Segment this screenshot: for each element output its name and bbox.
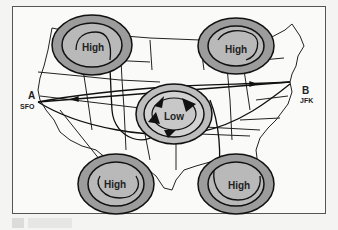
point-a-code: SFO bbox=[20, 103, 35, 110]
weather-route-diagram: High High Low High High A SFO B JFK bbox=[0, 0, 338, 230]
point-b-label: B bbox=[302, 85, 309, 96]
high-label-se: High bbox=[228, 180, 250, 191]
high-pressure-southeast: High bbox=[198, 154, 274, 214]
point-a-label: A bbox=[28, 90, 35, 101]
high-pressure-northeast: High bbox=[198, 18, 274, 74]
low-pressure-center: Low bbox=[136, 84, 212, 144]
point-b-code: JFK bbox=[300, 97, 313, 104]
low-label: Low bbox=[164, 111, 184, 122]
high-label-ne: High bbox=[225, 44, 247, 55]
high-label-nw: High bbox=[82, 42, 104, 53]
high-pressure-northwest: High bbox=[52, 15, 132, 75]
high-pressure-southwest: High bbox=[78, 154, 154, 214]
figure-caption bbox=[12, 218, 102, 228]
high-label-sw: High bbox=[104, 179, 126, 190]
